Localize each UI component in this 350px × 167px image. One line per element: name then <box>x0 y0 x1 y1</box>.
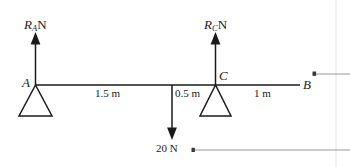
annotation-leader-upper <box>313 72 350 76</box>
dimension-label-load-to-c: 0.5 m <box>175 88 200 99</box>
dimension-label-a-to-load: 1.5 m <box>95 88 120 99</box>
point-label-a: A <box>22 76 30 89</box>
reaction-a-label: RAN <box>24 18 47 33</box>
reaction-c-unit: N <box>218 17 227 32</box>
point-load-label: 20 N <box>156 143 178 154</box>
point-label-b: B <box>303 78 311 91</box>
reaction-a-unit: N <box>37 17 46 32</box>
reaction-c-symbol: R <box>204 17 212 32</box>
reaction-c-label: RCN <box>204 18 227 33</box>
dimension-label-c-to-b: 1 m <box>254 88 271 99</box>
figure-canvas: RAN RCN A C B 1.5 m 0.5 m 1 m 20 N <box>0 0 350 167</box>
support-triangle-c <box>200 85 231 116</box>
point-label-c: C <box>219 69 228 82</box>
reaction-arrow-a <box>31 32 41 85</box>
annotation-leader-lower <box>192 148 350 152</box>
reaction-a-symbol: R <box>24 17 32 32</box>
